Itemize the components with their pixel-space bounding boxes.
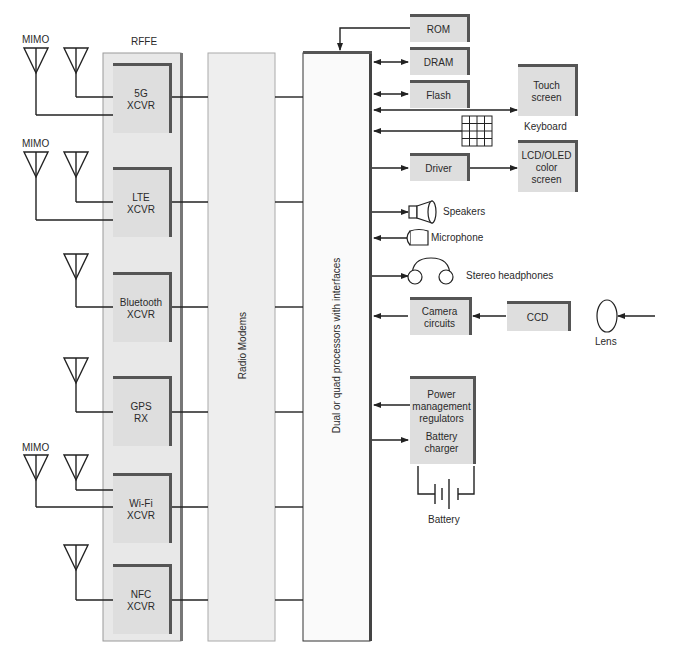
display-line3: screen — [531, 174, 561, 186]
processor-label: Dual or quad processors with interfaces — [331, 246, 342, 446]
ccd-box: CCD — [507, 301, 571, 331]
nfc-transceiver-name: NFC — [131, 589, 152, 601]
mimo-label-lte: MIMO — [22, 138, 49, 150]
keyboard-grid-icon — [462, 116, 492, 146]
camera-circuits-box: Camera circuits — [410, 297, 472, 335]
bluetooth-transceiver-type: XCVR — [127, 309, 155, 321]
lte-transceiver-name: LTE — [132, 192, 150, 204]
mimo-label-5g: MIMO — [22, 34, 49, 46]
display-line1: LCD/OLED — [521, 150, 571, 162]
lte-transceiver: LTE XCVR — [113, 167, 172, 237]
dram-box: DRAM — [410, 47, 470, 75]
headphones-label: Stereo headphones — [466, 270, 553, 282]
headphones-icon — [408, 257, 454, 285]
power-line1: Power — [427, 389, 455, 401]
speaker-icon — [409, 201, 437, 223]
bluetooth-transceiver: Bluetooth XCVR — [113, 272, 172, 342]
power-management-box: Power management regulators Battery char… — [410, 376, 476, 464]
touch-screen-line1: Touch — [533, 80, 560, 92]
power-line5: charger — [425, 443, 459, 455]
display-line2: color — [536, 162, 558, 174]
microphone-label: Microphone — [431, 232, 483, 244]
wifi-transceiver: Wi-Fi XCVR — [113, 473, 172, 543]
rom-box: ROM — [410, 14, 470, 42]
radio-modems-label: Radio Modems — [237, 296, 248, 396]
lens-label: Lens — [595, 336, 617, 348]
5g-transceiver-name: 5G — [134, 88, 147, 100]
battery-icon — [433, 478, 461, 510]
power-line2: management — [412, 401, 470, 413]
battery-label: Battery — [428, 514, 460, 526]
touch-screen-line2: screen — [531, 92, 561, 104]
microphone-icon — [404, 229, 430, 247]
lens-icon — [597, 300, 617, 332]
rffe-label: RFFE — [131, 36, 157, 48]
wifi-transceiver-name: Wi-Fi — [129, 498, 152, 510]
gps-receiver-type: RX — [134, 413, 148, 425]
touch-screen-box: Touch screen — [518, 64, 578, 116]
power-line3: regulators — [419, 413, 463, 425]
display-box: LCD/OLED color screen — [518, 140, 578, 192]
nfc-transceiver: NFC XCVR — [113, 564, 172, 634]
5g-transceiver-type: XCVR — [127, 100, 155, 112]
mimo-label-wifi: MIMO — [22, 442, 49, 454]
nfc-transceiver-type: XCVR — [127, 601, 155, 613]
camera-line1: Camera — [422, 306, 458, 318]
5g-transceiver: 5G XCVR — [113, 63, 172, 133]
power-line4: Battery — [426, 431, 458, 443]
speakers-label: Speakers — [443, 206, 485, 218]
keyboard-label: Keyboard — [524, 121, 567, 133]
lte-transceiver-type: XCVR — [127, 204, 155, 216]
bluetooth-transceiver-name: Bluetooth — [120, 297, 162, 309]
flash-box: Flash — [410, 80, 470, 108]
camera-line2: circuits — [424, 318, 455, 330]
driver-box: Driver — [410, 153, 470, 181]
gps-receiver-name: GPS — [130, 401, 151, 413]
wifi-transceiver-type: XCVR — [127, 510, 155, 522]
gps-receiver: GPS RX — [113, 376, 172, 446]
